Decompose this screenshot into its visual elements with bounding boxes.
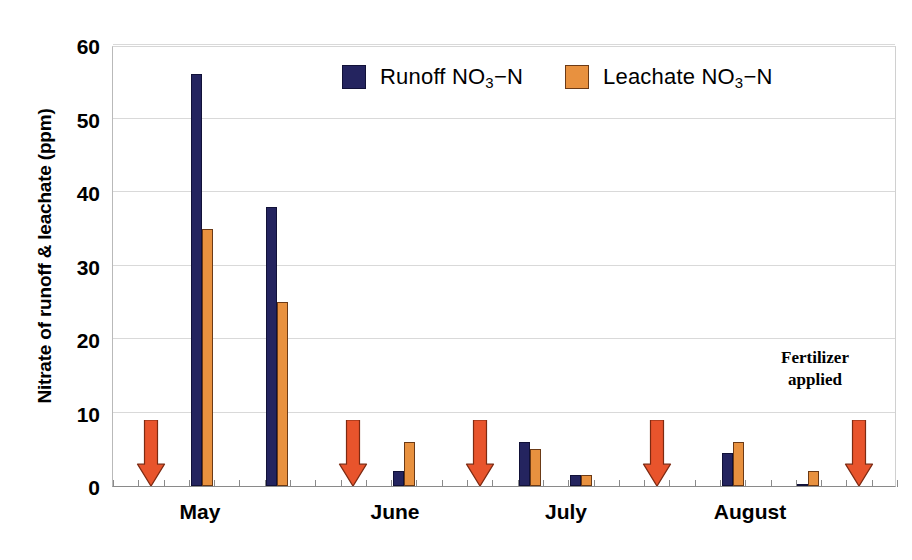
legend-label-leachate: Leachate NO3−N xyxy=(603,64,773,90)
legend-item-leachate: Leachate NO3−N xyxy=(565,64,773,90)
fertilizer-arrow-icon-4 xyxy=(844,420,874,486)
fertilizer-arrow-icon-3 xyxy=(642,420,672,486)
bar-runoff-july-3 xyxy=(519,442,530,486)
x-tick-mark xyxy=(771,480,772,487)
legend-label-runoff-sub: 3 xyxy=(485,74,494,91)
x-tick-mark xyxy=(695,480,696,487)
x-label-august: August xyxy=(690,500,810,524)
x-tick-mark xyxy=(594,480,595,487)
nitrate-runoff-leachate-chart: Nitrate of runoff & leachate (ppm) 60 50… xyxy=(0,0,912,560)
x-label-july: July xyxy=(516,500,616,524)
legend-swatch-leachate-icon xyxy=(565,65,589,89)
bar-runoff-may-0 xyxy=(191,74,202,486)
legend-label-leachate-prefix: Leachate NO xyxy=(603,64,735,89)
plot-area xyxy=(112,46,896,487)
bar-runoff-july-4 xyxy=(570,475,581,486)
legend-label-leachate-suffix: −N xyxy=(743,64,772,89)
y-axis-title: Nitrate of runoff & leachate (ppm) xyxy=(34,26,56,486)
legend-label-leachate-sub: 3 xyxy=(735,74,744,91)
x-tick-mark xyxy=(290,480,291,487)
gridline-50 xyxy=(113,118,895,119)
gridline-20 xyxy=(113,338,895,339)
x-tick-mark xyxy=(214,480,215,487)
bar-leachate-august-6 xyxy=(808,471,819,486)
bar-leachate-may-1 xyxy=(277,302,288,486)
x-label-may: May xyxy=(150,500,250,524)
x-tick-mark xyxy=(897,480,898,487)
bar-leachate-august-5 xyxy=(733,442,744,486)
bar-leachate-july-3 xyxy=(530,449,541,486)
x-tick-mark xyxy=(442,480,443,487)
bar-leachate-july-4 xyxy=(581,475,592,486)
legend-swatch-runoff-icon xyxy=(342,65,366,89)
chart-legend: Runoff NO3−N Leachate NO3−N xyxy=(342,64,773,90)
bar-runoff-august-5 xyxy=(722,453,733,486)
x-tick-mark xyxy=(543,480,544,487)
gridline-40 xyxy=(113,191,895,192)
legend-label-runoff-suffix: −N xyxy=(494,64,523,89)
gridline-60 xyxy=(113,44,895,45)
legend-label-runoff-prefix: Runoff NO xyxy=(380,64,485,89)
gridline-10 xyxy=(113,412,895,413)
x-label-june: June xyxy=(345,500,445,524)
legend-item-runoff: Runoff NO3−N xyxy=(342,64,523,90)
x-tick-mark xyxy=(619,480,620,487)
x-tick-mark xyxy=(239,480,240,487)
fertilizer-arrow-icon-2 xyxy=(465,420,495,486)
bar-runoff-may-1 xyxy=(266,207,277,486)
x-tick-mark xyxy=(113,480,114,487)
fertilizer-arrow-icon-0 xyxy=(136,420,166,486)
bar-runoff-june-2 xyxy=(393,471,404,486)
x-tick-mark xyxy=(821,480,822,487)
bar-runoff-august-6 xyxy=(797,484,808,486)
fertilizer-arrow-icon-1 xyxy=(338,420,368,486)
annotation-line-1: Fertilizer xyxy=(740,347,890,369)
bar-leachate-june-2 xyxy=(404,442,415,486)
bar-leachate-may-0 xyxy=(202,229,213,486)
annotation-line-2: applied xyxy=(740,369,890,391)
gridline-30 xyxy=(113,265,895,266)
legend-label-runoff: Runoff NO3−N xyxy=(380,64,523,90)
fertilizer-applied-annotation: Fertilizer applied xyxy=(740,347,890,391)
x-tick-mark xyxy=(745,480,746,487)
x-tick-mark xyxy=(416,480,417,487)
x-tick-mark xyxy=(315,480,316,487)
